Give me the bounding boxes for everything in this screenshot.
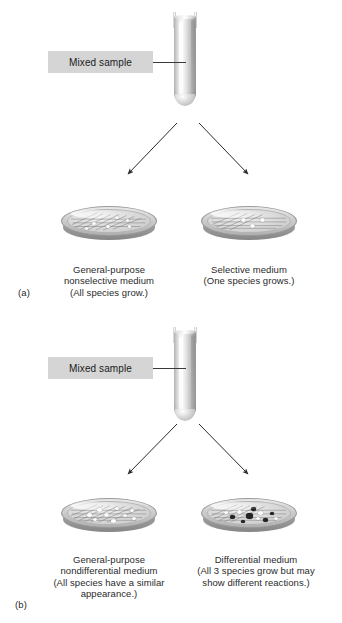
colony (128, 225, 131, 228)
colony (123, 514, 127, 517)
petri-dish-nondifferential (61, 494, 157, 538)
colony (85, 227, 88, 230)
colony (111, 519, 116, 523)
caption-line: General-purpose (47, 264, 171, 275)
petri-dish-differential (201, 494, 297, 538)
colony (92, 222, 96, 225)
colony (106, 225, 110, 228)
petri-dish-nonselective (61, 202, 157, 246)
colony (115, 507, 119, 510)
colony (258, 511, 263, 515)
figure-container: Mixed sample (0, 0, 342, 623)
caption-line: nondifferential medium (39, 565, 179, 576)
panel-a: Mixed sample (0, 0, 342, 316)
caption-line: (One species grows.) (187, 275, 311, 286)
caption-differential: Differential medium (All 3 species grow … (182, 554, 330, 588)
streak-lines (68, 210, 150, 232)
colony (104, 513, 109, 517)
caption-nondifferential: General-purpose nondifferential medium (… (39, 554, 179, 600)
colony-dark (241, 520, 245, 523)
panel-b: Mixed sample (0, 316, 342, 623)
colony (256, 517, 260, 520)
colony-dark (251, 507, 256, 511)
panel-letter-b: (b) (15, 599, 27, 610)
colony (130, 509, 134, 512)
colony-dark (246, 513, 253, 519)
colony (115, 216, 119, 219)
caption-selective: Selective medium (One species grows.) (187, 264, 311, 287)
colony-dark (263, 518, 268, 522)
colony-dark (230, 515, 235, 519)
streak-lines (68, 502, 150, 524)
colony (224, 511, 228, 514)
caption-nonselective: General-purpose nonselective medium (All… (47, 264, 171, 298)
colony (93, 518, 97, 521)
streak-lines (208, 210, 290, 232)
caption-line: nonselective medium (47, 275, 171, 286)
colony (97, 508, 102, 512)
colony (260, 218, 265, 222)
caption-line: Differential medium (182, 554, 330, 565)
dish-agar-surface (207, 501, 291, 525)
petri-dish-selective (201, 202, 297, 246)
caption-line: show different reactions.) (182, 577, 330, 588)
colony (241, 218, 246, 222)
panel-letter-a: (a) (18, 287, 30, 298)
colony (250, 224, 255, 228)
colony (237, 510, 242, 514)
caption-line: (All 3 species grow but may (182, 565, 330, 576)
caption-line: appearance.) (39, 588, 179, 599)
dish-agar-surface (207, 209, 291, 233)
colony (132, 517, 136, 520)
caption-line: (All species grow.) (47, 287, 171, 298)
caption-line: General-purpose (39, 554, 179, 565)
colony (126, 219, 129, 222)
colony-dark (270, 512, 274, 515)
caption-line: Selective medium (187, 264, 311, 275)
caption-line: (All species have a similar (39, 577, 179, 588)
colony (87, 513, 92, 517)
dish-agar-surface (67, 209, 151, 233)
colony (274, 517, 278, 520)
dish-agar-surface (67, 501, 151, 525)
